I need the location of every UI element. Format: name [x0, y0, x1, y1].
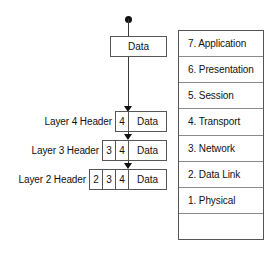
- pdu-header-cell-3: 3: [102, 140, 116, 161]
- pdu-payload-cell-layer4: Data: [128, 111, 167, 132]
- pdu-label-layer3: Layer 3 Header: [31, 140, 103, 161]
- pdu-header-cell-3-4: 4: [115, 140, 129, 161]
- osi-layer-1: 1. Physical: [179, 188, 263, 214]
- encapsulation-diagram: Data Layer 4 Header 4 Data Layer 3 Heade…: [0, 0, 274, 253]
- flow-line-origin-to-payload: [128, 19, 129, 36]
- top-payload-box: Data: [110, 36, 167, 57]
- pdu-header-cell-4: 4: [115, 111, 129, 132]
- osi-layer-3: 3. Network: [179, 136, 263, 162]
- osi-layer-4: 4. Transport: [179, 109, 263, 135]
- pdu-payload-cell-layer2: Data: [128, 169, 167, 190]
- pdu-row-layer3: Layer 3 Header 3 4 Data: [0, 140, 167, 161]
- pdu-row-layer4: Layer 4 Header 4 Data: [0, 111, 167, 132]
- osi-layer-2: 2. Data Link: [179, 162, 263, 188]
- flow-line-payload-to-layer4: [128, 57, 129, 108]
- pdu-header-cell-2-3: 3: [102, 169, 116, 190]
- pdu-header-cell-2-4: 4: [115, 169, 129, 190]
- pdu-label-layer2: Layer 2 Header: [18, 169, 90, 190]
- osi-layer-6: 6. Presentation: [179, 57, 263, 83]
- pdu-label-layer4: Layer 4 Header: [44, 111, 116, 132]
- pdu-header-cell-2: 2: [89, 169, 103, 190]
- osi-layer-5: 5. Session: [179, 83, 263, 109]
- osi-layer-empty: [179, 214, 263, 239]
- pdu-row-layer2: Layer 2 Header 2 3 4 Data: [0, 169, 167, 190]
- pdu-payload-cell-layer3: Data: [128, 140, 167, 161]
- osi-layer-stack: 7. Application 6. Presentation 5. Sessio…: [178, 30, 264, 240]
- osi-layer-7: 7. Application: [179, 31, 263, 57]
